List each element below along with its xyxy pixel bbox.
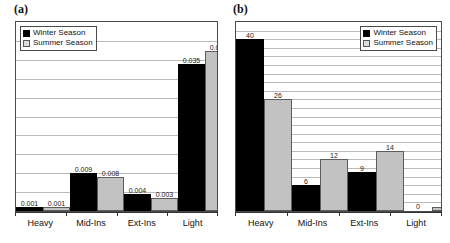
bar-value-winter-ext-ins: 0.004 [129, 187, 147, 194]
bar-group-heavy: 40 26 [236, 22, 292, 211]
summer-swatch-icon [23, 40, 30, 47]
bar-summer-heavy: 26 [264, 99, 292, 211]
x-label-ext-ins: Ext-Ins [117, 218, 168, 228]
bar-value-winter-mid-ins: 0.009 [75, 166, 93, 173]
panel-b-plot-area: Winter Season Summer Season 40 26 [235, 21, 442, 212]
legend-label-winter: Winter Season [373, 28, 425, 38]
bar-summer-ext-ins: 14 [376, 151, 404, 211]
x-label-mid-ins: Mid-Ins [287, 218, 339, 228]
x-label-mid-ins: Mid-Ins [66, 218, 117, 228]
panel-a-plot-area: Winter Season Summer Season 0.001 0.001 [15, 21, 218, 212]
bar-summer-mid-ins: 0.008 [97, 177, 124, 211]
bar-value-summer-mid-ins: 12 [330, 152, 338, 159]
bar-summer-light: 1 [432, 207, 442, 211]
legend-entry-winter: Winter Season [363, 28, 433, 38]
x-tick [167, 212, 168, 216]
bar-value-summer-ext-ins: 14 [386, 144, 394, 151]
bar-summer-light: 0.038 [205, 51, 218, 211]
x-tick [390, 212, 391, 216]
bar-value-winter-heavy: 0.001 [21, 200, 39, 207]
bar-winter-light: 0.035 [178, 64, 205, 211]
legend-label-summer: Summer Season [33, 38, 93, 48]
x-tick [441, 212, 442, 216]
x-tick [66, 212, 67, 216]
bar-value-winter-light: 0.035 [183, 57, 201, 64]
panel-b: (b) Winter Season Summer Season 40 [225, 0, 450, 243]
panel-b-x-axis: Heavy Mid-Ins Ext-Ins Light [235, 212, 442, 240]
panel-b-legend: Winter Season Summer Season [360, 26, 437, 51]
x-label-ext-ins: Ext-Ins [339, 218, 391, 228]
panel-a-x-ticks [15, 212, 218, 216]
x-tick [235, 212, 236, 216]
bar-value-summer-heavy: 0.001 [48, 200, 66, 207]
panel-b-x-ticks [235, 212, 442, 216]
winter-swatch-icon [23, 30, 30, 37]
bar-value-winter-mid-ins: 6 [304, 178, 308, 185]
bar-value-summer-mid-ins: 0.008 [102, 170, 120, 177]
x-label-light: Light [167, 218, 218, 228]
legend-entry-summer: Summer Season [23, 38, 93, 48]
winter-swatch-icon [363, 30, 370, 37]
bar-value-summer-heavy: 26 [274, 92, 282, 99]
bar-value-winter-light: 0 [416, 203, 420, 210]
x-tick [339, 212, 340, 216]
panel-a-x-axis: Heavy Mid-Ins Ext-Ins Light [15, 212, 218, 240]
summer-swatch-icon [363, 40, 370, 47]
panel-a-legend: Winter Season Summer Season [20, 26, 97, 51]
x-tick [117, 212, 118, 216]
bar-value-summer-ext-ins: 0.003 [156, 191, 174, 198]
legend-label-summer: Summer Season [373, 38, 433, 48]
legend-entry-summer: Summer Season [363, 38, 433, 48]
bar-summer-heavy: 0.001 [43, 207, 70, 211]
bar-value-summer-light: 0.038 [210, 44, 218, 51]
bar-winter-heavy: 40 [236, 39, 264, 211]
x-tick [217, 212, 218, 216]
x-label-light: Light [390, 218, 442, 228]
bar-group-ext-ins: 0.004 0.003 [124, 22, 178, 211]
bar-winter-ext-ins: 9 [348, 172, 376, 211]
bar-winter-heavy: 0.001 [16, 207, 43, 211]
panel-a-x-labels: Heavy Mid-Ins Ext-Ins Light [15, 218, 218, 228]
x-label-heavy: Heavy [15, 218, 66, 228]
legend-label-winter: Winter Season [33, 28, 85, 38]
bar-group-mid-ins: 6 12 [292, 22, 348, 211]
legend-entry-winter: Winter Season [23, 28, 93, 38]
bar-summer-ext-ins: 0.003 [151, 198, 178, 211]
panel-a: (a) Winter Season Summer Season 0.001 [0, 0, 225, 243]
bar-winter-mid-ins: 6 [292, 185, 320, 211]
bar-value-winter-heavy: 40 [246, 32, 254, 39]
bar-value-winter-ext-ins: 9 [360, 165, 364, 172]
panel-b-x-labels: Heavy Mid-Ins Ext-Ins Light [235, 218, 442, 228]
x-tick [15, 212, 16, 216]
x-tick [287, 212, 288, 216]
figure-two-panel-bar-charts: (a) Winter Season Summer Season 0.001 [0, 0, 450, 243]
bar-winter-mid-ins: 0.009 [70, 173, 97, 211]
x-label-heavy: Heavy [235, 218, 287, 228]
bar-summer-mid-ins: 12 [320, 159, 348, 211]
panel-a-label: (a) [14, 2, 28, 17]
bar-winter-ext-ins: 0.004 [124, 194, 151, 211]
bar-group-light: 0.035 0.038 [178, 22, 218, 211]
panel-b-label: (b) [233, 2, 248, 17]
